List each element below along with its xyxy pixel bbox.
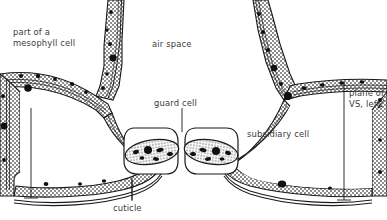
- label-guard-cell: guard cell: [154, 98, 197, 109]
- label-air-space: air space: [152, 39, 191, 50]
- label-plane-of-vs: plane of VS, left: [349, 88, 384, 109]
- stoma-diagram-figure: part of a mesophyll cell air space guard…: [0, 0, 387, 220]
- label-mesophyll-cell: part of a mesophyll cell: [13, 27, 75, 48]
- label-cuticle: cuticle: [113, 203, 142, 214]
- guard-cell-right: [182, 128, 239, 174]
- label-subsidiary-cell: subsidiary cell: [247, 129, 309, 140]
- guard-cell-left: [123, 128, 180, 174]
